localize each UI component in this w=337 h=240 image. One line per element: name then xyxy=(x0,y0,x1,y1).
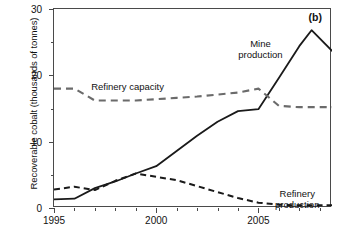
series-label: Refineryproduction xyxy=(275,188,319,210)
y-tick-major: 10 xyxy=(49,142,54,143)
x-tick-minor xyxy=(136,208,137,211)
chart-figure: Recoverable cobalt (thousands of tonnes)… xyxy=(0,0,337,240)
y-axis-title: Recoverable cobalt (thousands of tonnes) xyxy=(28,0,39,214)
series-lines xyxy=(54,9,332,208)
y-tick-major: 20 xyxy=(49,75,54,76)
series-label-line: Refinery capacity xyxy=(91,81,164,92)
series-label-line: production xyxy=(238,49,282,60)
x-tick-minor xyxy=(95,208,96,211)
x-tick-major xyxy=(54,208,55,213)
y-tick-major: 30 xyxy=(49,9,54,10)
y-tick-label: 0 xyxy=(36,204,42,214)
x-tick-label: 2000 xyxy=(145,216,167,226)
y-tick-label: 10 xyxy=(31,138,42,148)
y-tick-label: 30 xyxy=(31,5,42,15)
x-tick-minor xyxy=(74,208,75,211)
y-tick-minor xyxy=(51,42,54,43)
x-tick-major xyxy=(156,208,157,213)
y-tick-minor xyxy=(51,175,54,176)
x-tick-label: 2005 xyxy=(247,216,269,226)
x-tick-label: 1995 xyxy=(43,216,65,226)
series-label-line: Mine xyxy=(238,38,282,49)
x-tick-minor xyxy=(238,208,239,211)
series-label: Mineproduction xyxy=(238,38,282,60)
x-tick-minor xyxy=(320,208,321,211)
series-label-line: Refinery xyxy=(275,188,319,199)
plot-area: 0102030199520002005 MineproductionRefine… xyxy=(53,8,331,207)
x-tick-major xyxy=(258,208,259,213)
x-tick-minor xyxy=(177,208,178,211)
series-label: Refinery capacity xyxy=(91,81,164,92)
x-tick-minor xyxy=(218,208,219,211)
x-tick-minor xyxy=(115,208,116,211)
x-tick-minor xyxy=(197,208,198,211)
series-line-mine-production xyxy=(54,30,332,199)
series-label-line: production xyxy=(275,199,319,210)
y-tick-label: 20 xyxy=(31,71,42,81)
panel-label: (b) xyxy=(309,11,322,23)
y-tick-minor xyxy=(51,109,54,110)
